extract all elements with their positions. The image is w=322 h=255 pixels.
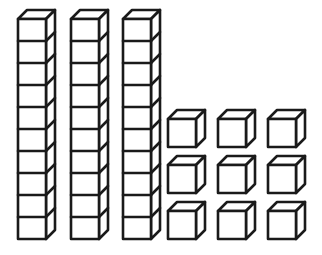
- unit-cubes-group: [168, 110, 305, 239]
- unit-cube-front-face: [218, 211, 246, 239]
- unit-cube-front-face: [268, 165, 296, 193]
- unit-cube-front-face: [268, 211, 296, 239]
- unit-cube-front-face: [168, 211, 196, 239]
- tens-rod: [18, 10, 55, 239]
- unit-cube-front-face: [168, 119, 196, 147]
- unit-cube: [268, 156, 305, 193]
- base-ten-blocks-figure: [0, 0, 322, 255]
- unit-cube-front-face: [218, 165, 246, 193]
- tens-rod: [71, 10, 108, 239]
- unit-cube-front-face: [168, 165, 196, 193]
- unit-cube: [218, 202, 255, 239]
- tens-rods-group: [18, 10, 160, 239]
- unit-cube: [168, 202, 205, 239]
- unit-cube: [168, 110, 205, 147]
- unit-cube-front-face: [218, 119, 246, 147]
- unit-cube: [268, 202, 305, 239]
- unit-cube: [168, 156, 205, 193]
- unit-cube-front-face: [268, 119, 296, 147]
- unit-cube: [268, 110, 305, 147]
- unit-cube: [218, 110, 255, 147]
- unit-cube: [218, 156, 255, 193]
- tens-rod: [123, 10, 160, 239]
